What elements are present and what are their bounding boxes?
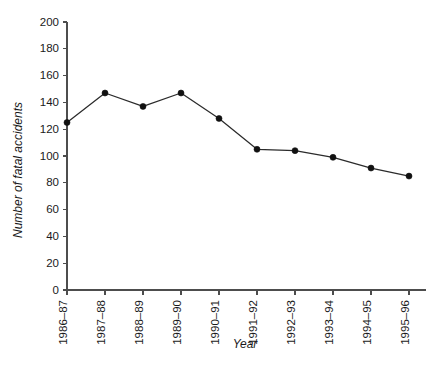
x-tick-label: 1993–94 [323, 299, 335, 344]
y-tick-label: 200 [40, 16, 59, 28]
y-tick-label: 0 [53, 284, 59, 296]
data-point-marker [406, 173, 412, 179]
chart-canvas: 020406080100120140160180200 1986–871987–… [0, 0, 441, 365]
y-axis-title: Number of fatal accidents [11, 102, 25, 238]
data-point-marker [254, 146, 260, 152]
data-point-marker [368, 165, 374, 171]
x-tick-label: 1994–95 [361, 300, 373, 345]
y-tick-label: 80 [46, 176, 59, 188]
data-point-marker [292, 148, 298, 154]
y-tick-label-group: 020406080100120140160180200 [40, 16, 59, 296]
data-series-group [64, 90, 412, 179]
data-point-marker [102, 90, 108, 96]
x-axis-title: Year [233, 337, 259, 351]
data-point-marker [178, 90, 184, 96]
x-tick-label: 1989–90 [171, 300, 183, 345]
x-tick-label: 1986–87 [57, 300, 69, 345]
fatal-accidents-line-chart: 020406080100120140160180200 1986–871987–… [0, 0, 441, 365]
y-axis: 020406080100120140160180200 [40, 16, 67, 296]
y-tick-label: 160 [40, 69, 59, 81]
y-tick-label: 60 [46, 203, 59, 215]
x-tick-label: 1988–89 [133, 300, 145, 345]
data-point-marker [216, 115, 222, 121]
y-tick-label: 20 [46, 257, 59, 269]
data-point-marker [140, 103, 146, 109]
x-tick-group [67, 290, 409, 295]
x-tick-label: 1987–88 [95, 300, 107, 345]
y-tick-label: 100 [40, 150, 59, 162]
y-tick-label: 120 [40, 123, 59, 135]
series-line-fatal-accidents [67, 93, 409, 176]
y-tick-label: 140 [40, 96, 59, 108]
y-tick-label: 180 [40, 42, 59, 54]
y-tick-label: 40 [46, 230, 59, 242]
data-point-marker [64, 120, 70, 126]
x-tick-label: 1990–91 [209, 300, 221, 345]
x-tick-label: 1992–93 [285, 300, 297, 345]
data-point-marker [330, 154, 336, 160]
x-tick-label: 1995–96 [399, 300, 411, 345]
